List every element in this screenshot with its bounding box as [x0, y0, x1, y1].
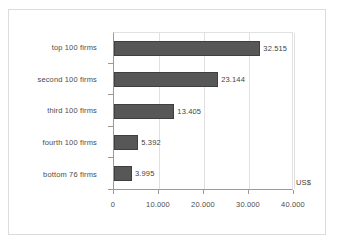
value-axis-tick-label: 30.000	[236, 200, 260, 209]
category-slot: second 100 firms	[9, 64, 105, 96]
bar-value-label: 3.995	[135, 169, 155, 178]
value-axis-tick	[293, 190, 294, 194]
bar-value-label: 32.515	[263, 44, 287, 53]
value-axis-tick-label: 20.000	[191, 200, 215, 209]
value-axis-tick	[113, 190, 114, 194]
bar-bottom-76-firms	[114, 166, 132, 181]
bar-row: 23.144	[114, 64, 292, 95]
value-axis: 010.00020.00030.00040.000	[113, 190, 293, 220]
bars-layer: 32.515 23.144 13.405 5.392 3.995	[114, 33, 292, 189]
bar-second-100-firms	[114, 72, 218, 87]
bar-value-label: 13.405	[177, 107, 201, 116]
category-slot: bottom 76 firms	[9, 158, 105, 190]
category-slot: third 100 firms	[9, 95, 105, 127]
value-axis-tick	[158, 190, 159, 194]
gridline	[294, 33, 295, 189]
category-label-bottom-76-firms: bottom 76 firms	[43, 170, 97, 179]
bar-third-100-firms	[114, 104, 174, 119]
value-axis-tick	[248, 190, 249, 194]
bar-row: 13.405	[114, 95, 292, 126]
value-axis-tick-label: 0	[111, 200, 115, 209]
bar-row: 5.392	[114, 127, 292, 158]
axis-unit-label: US$	[296, 178, 311, 187]
category-slot: top 100 firms	[9, 32, 105, 64]
category-label-second-100-firms: second 100 firms	[37, 75, 97, 84]
bar-row: 3.995	[114, 158, 292, 189]
bar-value-label: 23.144	[221, 75, 245, 84]
bar-fourth-100-firms	[114, 135, 138, 150]
category-label-fourth-100-firms: fourth 100 firms	[42, 138, 97, 147]
value-axis-tick	[203, 190, 204, 194]
bar-row: 32.515	[114, 33, 292, 64]
chart-figure: top 100 firms second 100 firms third 100…	[8, 9, 326, 235]
category-label-top-100-firms: top 100 firms	[52, 43, 97, 52]
plot-area: 32.515 23.144 13.405 5.392 3.995	[113, 32, 293, 190]
category-label-third-100-firms: third 100 firms	[47, 106, 97, 115]
value-axis-tick-label: 10.000	[146, 200, 170, 209]
bar-value-label: 5.392	[141, 138, 161, 147]
value-axis-tick-label: 40.000	[281, 200, 305, 209]
category-slot: fourth 100 firms	[9, 127, 105, 159]
bar-top-100-firms	[114, 41, 260, 56]
category-axis: top 100 firms second 100 firms third 100…	[9, 32, 105, 190]
